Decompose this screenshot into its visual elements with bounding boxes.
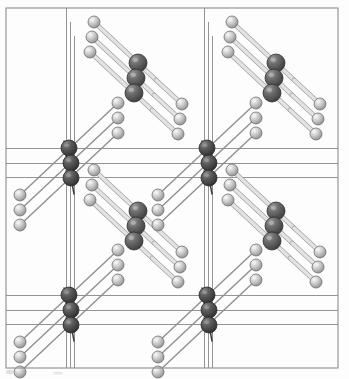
light-atom-highlight bbox=[228, 19, 232, 22]
light-atom bbox=[112, 274, 124, 286]
light-atom-highlight bbox=[16, 207, 20, 210]
bond-rod bbox=[158, 148, 208, 195]
light-atom bbox=[88, 164, 100, 176]
bond-rod bbox=[20, 310, 70, 357]
dark-atom-highlight bbox=[133, 206, 138, 210]
corner-atom-highlight bbox=[202, 290, 207, 294]
light-atom bbox=[250, 112, 262, 124]
scan-artifact-speck bbox=[6, 370, 14, 374]
light-atom bbox=[226, 16, 238, 28]
corner-atom-highlight bbox=[64, 290, 69, 294]
light-atom-highlight bbox=[90, 19, 94, 22]
corner-atom-highlight bbox=[202, 143, 207, 147]
light-atom-highlight bbox=[226, 34, 230, 37]
light-atom bbox=[312, 113, 324, 125]
light-atom-highlight bbox=[252, 100, 256, 103]
crystal-structure-svg bbox=[0, 0, 349, 379]
light-atom-highlight bbox=[252, 130, 256, 133]
light-atom bbox=[250, 259, 262, 271]
light-atom bbox=[14, 219, 26, 231]
dark-atom-highlight bbox=[129, 236, 134, 240]
light-atom bbox=[312, 261, 324, 273]
light-atom-highlight bbox=[314, 116, 318, 119]
light-atom bbox=[222, 46, 234, 58]
dark-atom bbox=[125, 232, 143, 250]
dark-atom-highlight bbox=[267, 236, 272, 240]
corner-atom bbox=[201, 155, 217, 171]
light-atom bbox=[152, 189, 164, 201]
light-atom-highlight bbox=[312, 131, 316, 134]
light-atom bbox=[112, 127, 124, 139]
light-atom-highlight bbox=[252, 262, 256, 265]
corner-atom-highlight bbox=[64, 143, 69, 147]
light-atom bbox=[152, 204, 164, 216]
dark-atom-highlight bbox=[267, 88, 272, 92]
corner-atom bbox=[61, 140, 77, 156]
light-atom-highlight bbox=[86, 197, 90, 200]
light-atom bbox=[310, 128, 322, 140]
light-atom bbox=[250, 97, 262, 109]
light-atom bbox=[172, 128, 184, 140]
corner-atom bbox=[63, 155, 79, 171]
light-atom bbox=[14, 204, 26, 216]
light-atom bbox=[172, 276, 184, 288]
bond-rod bbox=[158, 310, 208, 357]
dark-atom-highlight bbox=[269, 73, 274, 77]
light-atom bbox=[314, 246, 326, 258]
light-atom bbox=[88, 16, 100, 28]
dark-atom-highlight bbox=[271, 58, 276, 62]
light-atom bbox=[86, 31, 98, 43]
light-atom bbox=[112, 259, 124, 271]
bond-rod bbox=[20, 163, 70, 210]
bond-rod bbox=[158, 295, 208, 342]
light-atom bbox=[174, 113, 186, 125]
light-atom-highlight bbox=[174, 131, 178, 134]
corner-atom bbox=[201, 170, 217, 186]
corner-atom bbox=[63, 302, 79, 318]
light-atom-highlight bbox=[88, 34, 92, 37]
atom-layer bbox=[14, 16, 326, 378]
dark-atom bbox=[125, 84, 143, 102]
light-atom bbox=[152, 219, 164, 231]
dark-atom bbox=[263, 84, 281, 102]
light-atom-highlight bbox=[316, 101, 320, 104]
dark-atom-highlight bbox=[269, 221, 274, 225]
scan-artifact-speck bbox=[53, 371, 63, 374]
light-atom bbox=[152, 336, 164, 348]
light-atom-highlight bbox=[154, 369, 158, 372]
light-atom bbox=[250, 127, 262, 139]
corner-atom-highlight bbox=[66, 305, 71, 309]
frame-border bbox=[6, 8, 338, 368]
light-atom bbox=[224, 179, 236, 191]
corner-atom bbox=[201, 317, 217, 333]
light-atom bbox=[84, 46, 96, 58]
light-atom-highlight bbox=[224, 49, 228, 52]
dark-atom-highlight bbox=[131, 221, 136, 225]
corner-atom bbox=[201, 302, 217, 318]
light-atom bbox=[112, 112, 124, 124]
bond-rod bbox=[20, 295, 70, 342]
bond-rod bbox=[158, 178, 208, 225]
light-atom-highlight bbox=[174, 279, 178, 282]
light-atom-highlight bbox=[86, 49, 90, 52]
light-atom-highlight bbox=[114, 247, 118, 250]
light-atom-highlight bbox=[16, 354, 20, 357]
light-atom bbox=[14, 351, 26, 363]
light-atom-highlight bbox=[252, 277, 256, 280]
corner-atom-highlight bbox=[204, 158, 209, 162]
light-atom-highlight bbox=[114, 277, 118, 280]
light-atom bbox=[250, 274, 262, 286]
light-atom bbox=[314, 98, 326, 110]
dark-atom bbox=[263, 232, 281, 250]
light-atom-highlight bbox=[16, 192, 20, 195]
light-atom-highlight bbox=[154, 207, 158, 210]
bond-rod bbox=[158, 163, 208, 210]
figure-canvas bbox=[0, 0, 349, 379]
light-atom bbox=[86, 179, 98, 191]
light-atom-highlight bbox=[252, 115, 256, 118]
light-atom bbox=[250, 244, 262, 256]
light-atom-highlight bbox=[114, 262, 118, 265]
light-atom-highlight bbox=[228, 167, 232, 170]
bond-rod bbox=[158, 325, 208, 372]
dark-atom-highlight bbox=[131, 73, 136, 77]
